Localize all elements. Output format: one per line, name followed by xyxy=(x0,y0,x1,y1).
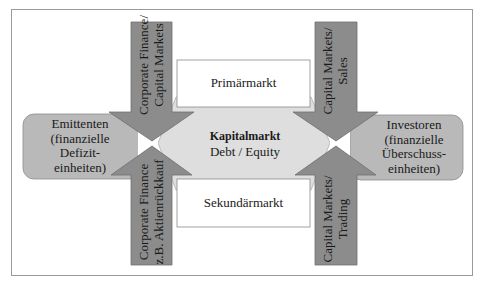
arrow-top-right-line-2: Sales xyxy=(336,26,351,116)
kapitalmarkt-subtitle: Debt / Equity xyxy=(180,145,310,160)
emittenten-line-1: Emittenten xyxy=(30,117,130,132)
arrow-top-left-label: Corporate Finance/ Capital Markets xyxy=(137,9,167,121)
investoren-line-3: Überschuss- xyxy=(360,147,468,162)
arrow-bottom-right-line-1: Capital Markets/ xyxy=(321,170,336,268)
arrow-top-left-line-2: Capital Markets xyxy=(152,9,167,121)
sekundaermarkt-label: Sekundärmarkt xyxy=(177,196,310,211)
kapitalmarkt-title: Kapitalmarkt xyxy=(180,130,310,143)
arrow-top-left-line-1: Corporate Finance/ xyxy=(137,9,152,121)
arrow-top-right-label: Capital Markets/ Sales xyxy=(321,26,351,116)
arrow-bottom-left-line-1: Corporate Finance xyxy=(137,154,152,270)
arrow-top-right-line-1: Capital Markets/ xyxy=(321,26,336,116)
investoren-line-4: einheiten) xyxy=(360,162,468,177)
primaermarkt-label: Primärmarkt xyxy=(177,76,310,91)
arrow-bottom-left-label: Corporate Finance z.B. Aktienrückkauf xyxy=(137,154,167,270)
investoren-line-2: (finanzielle xyxy=(360,133,468,148)
emittenten-line-2: (finanzielle xyxy=(30,132,130,147)
investoren-line-1: Investoren xyxy=(360,118,468,133)
arrow-bottom-right-label: Capital Markets/ Trading xyxy=(321,170,351,268)
emittenten-line-4: einheiten) xyxy=(30,161,130,176)
arrow-bottom-left-line-2: z.B. Aktienrückkauf xyxy=(152,154,167,270)
arrow-bottom-right-line-2: Trading xyxy=(336,170,351,268)
investoren-text: Investoren (finanzielle Überschuss- einh… xyxy=(360,118,468,176)
emittenten-line-3: Defizit- xyxy=(30,146,130,161)
emittenten-text: Emittenten (finanzielle Defizit- einheit… xyxy=(30,117,130,175)
